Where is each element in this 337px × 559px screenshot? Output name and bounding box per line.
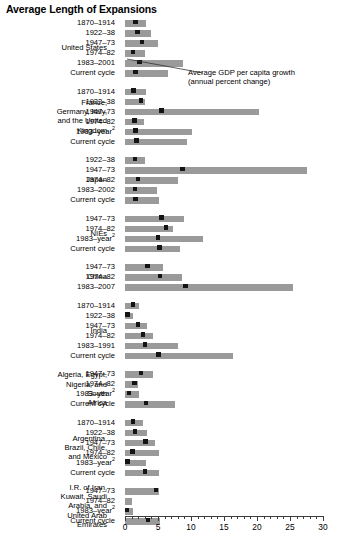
axis-tick-major: [323, 516, 324, 521]
axis-tick-minor: [217, 516, 218, 519]
chart-row: 1947–73: [0, 369, 337, 379]
chart-group: China1947–731974–821983–2007: [0, 262, 337, 292]
axis-tick-minor: [297, 516, 298, 519]
axis-tick-minor: [211, 516, 212, 519]
chart-row: Current cycle: [0, 399, 337, 409]
axis-tick-minor: [244, 516, 245, 519]
chart-row: 1983–year2: [0, 234, 337, 244]
axis-tick-minor: [204, 516, 205, 519]
axis-tick-minor: [151, 516, 152, 519]
chart-row: 1947–73: [0, 165, 337, 175]
axis-tick-minor: [198, 516, 199, 519]
chart-row: 1983–year2: [0, 389, 337, 399]
gdp-growth-marker: [136, 322, 141, 327]
gdp-growth-marker: [133, 187, 138, 192]
row-period-label: 1974–82: [0, 496, 115, 506]
row-period-label: 1974–82: [0, 224, 115, 234]
chart-row: Current cycle: [0, 244, 337, 254]
expansion-length-bar: [125, 236, 203, 243]
row-period-label: 1983–2001: [0, 58, 115, 68]
axis-tick-major: [158, 516, 159, 521]
row-period-label: 1870–1914: [0, 87, 115, 97]
annotation-leader-line: [125, 58, 205, 76]
row-period-label: Current cycle: [0, 468, 115, 478]
expansion-length-bar: [125, 177, 178, 184]
chart-row: 1947–73: [0, 38, 337, 48]
row-period-label: 1922–38: [0, 28, 115, 38]
chart-row: 1922–38: [0, 97, 337, 107]
gdp-growth-marker: [156, 235, 161, 240]
chart-row: 1947–73: [0, 321, 337, 331]
gdp-growth-marker: [133, 429, 138, 434]
axis-tick-label: 20: [252, 522, 261, 532]
gdp-growth-marker: [125, 312, 130, 317]
axis-tick-label: 10: [186, 522, 195, 532]
axis-tick-minor: [310, 516, 311, 519]
chart-row: Current cycle: [0, 195, 337, 205]
chart-row: 1947–73: [0, 486, 337, 496]
row-period-label: Current cycle: [0, 399, 115, 409]
chart-row: 1974–82: [0, 117, 337, 127]
gdp-growth-marker: [143, 469, 148, 474]
footnote-marker: 2: [112, 387, 115, 393]
axis-tick-minor: [184, 516, 185, 519]
expansion-length-bar: [125, 498, 132, 505]
chart-row: Current cycle: [0, 351, 337, 361]
axis-tick-minor: [283, 516, 284, 519]
chart-row: 1974–82: [0, 448, 337, 458]
gdp-growth-marker: [131, 419, 136, 424]
gdp-growth-marker: [132, 118, 137, 123]
row-period-label: 1983–2002: [0, 185, 115, 195]
gdp-growth-marker: [131, 88, 136, 93]
axis-tick-label: 15: [219, 522, 228, 532]
expansion-length-bar: [125, 216, 184, 223]
chart-row: 1983–2007: [0, 282, 337, 292]
row-period-label: 1947–73: [0, 38, 115, 48]
chart-row: 1870–1914: [0, 87, 337, 97]
footnote-marker: 2: [112, 232, 115, 238]
row-period-label: 1974–82: [0, 448, 115, 458]
row-period-label: 1983–year2: [0, 458, 115, 468]
row-period-label: Current cycle: [0, 244, 115, 254]
row-period-label: 1983–year2: [0, 127, 115, 137]
gdp-growth-marker: [164, 225, 169, 230]
row-period-label: 1947–73: [0, 369, 115, 379]
expansion-length-bar: [125, 401, 175, 408]
expansion-length-bar: [125, 343, 178, 350]
axis-tick-minor: [237, 516, 238, 519]
gdp-growth-marker: [180, 167, 185, 172]
expansion-length-bar: [125, 264, 163, 271]
expansion-length-bar: [125, 440, 155, 447]
footnote-marker: 2: [112, 456, 115, 462]
axis-tick-minor: [270, 516, 271, 519]
axis-tick-minor: [250, 516, 251, 519]
gdp-growth-marker: [136, 177, 141, 182]
row-period-label: 1983–year2: [0, 506, 115, 516]
axis-tick-label: 30: [318, 522, 327, 532]
chart-row: 1983–year2: [0, 458, 337, 468]
gdp-growth-marker: [130, 449, 135, 454]
row-period-label: 1870–1914: [0, 418, 115, 428]
axis-tick-minor: [138, 516, 139, 519]
chart-group: NIEs1947–731974–821983–year2Current cycl…: [0, 214, 337, 254]
row-period-label: Current cycle: [0, 351, 115, 361]
axis-tick-minor: [303, 516, 304, 519]
row-period-label: Current cycle: [0, 195, 115, 205]
axis-tick-label: 5: [156, 522, 161, 532]
chart-row: 1974–82: [0, 224, 337, 234]
chart-row: 1870–1914: [0, 418, 337, 428]
chart-group: India1870–19141922–381947–731974–821983–…: [0, 301, 337, 361]
chart-row: 1870–1914: [0, 301, 337, 311]
expansion-length-bar: [125, 197, 159, 204]
annotation-label: Average GDP per capita growth (annual pe…: [188, 68, 336, 87]
expansion-length-bar: [125, 274, 182, 281]
chart-row: 1947–73: [0, 107, 337, 117]
chart-row: 1947–73: [0, 438, 337, 448]
gdp-growth-marker: [135, 30, 140, 35]
row-period-label: 1947–73: [0, 321, 115, 331]
gdp-growth-marker: [159, 108, 164, 113]
chart-row: 1974–82: [0, 331, 337, 341]
gdp-growth-marker: [131, 302, 136, 307]
row-period-label: 1974–82: [0, 331, 115, 341]
row-period-label: 1922–38: [0, 428, 115, 438]
